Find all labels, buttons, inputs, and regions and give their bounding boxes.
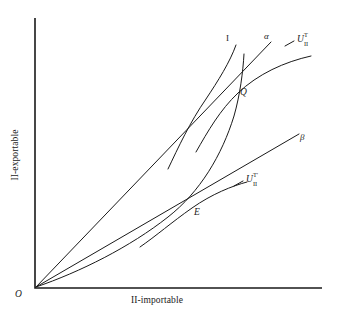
indifference-curve-lower-label: U T′ II <box>246 171 259 187</box>
offer-curve-i-label: I <box>226 33 229 43</box>
x-axis-label: II-importable <box>131 295 183 305</box>
origin-label: O <box>15 289 22 299</box>
point-q-label: Q <box>240 87 247 97</box>
point-e-label: E <box>193 207 200 217</box>
leader-line-upper <box>285 41 294 46</box>
y-axis-label: II-exportable <box>10 130 20 181</box>
indifference-curve-upper-label: U T II <box>297 31 308 47</box>
offer-curve-country-i <box>168 45 236 169</box>
economics-diagram: II-importable II-exportable O I α β Q E … <box>0 0 340 318</box>
indiff-upper-superscript: T <box>304 31 308 38</box>
indiff-lower-superscript: T′ <box>253 171 259 178</box>
axis-frame <box>35 18 322 288</box>
indiff-upper-subscript: II <box>304 40 308 47</box>
indiff-lower-subscript: II <box>253 180 257 187</box>
ray-beta-label: β <box>299 132 305 142</box>
ray-alpha <box>36 42 271 287</box>
ray-alpha-label: α <box>264 31 269 41</box>
ray-beta <box>36 134 299 287</box>
